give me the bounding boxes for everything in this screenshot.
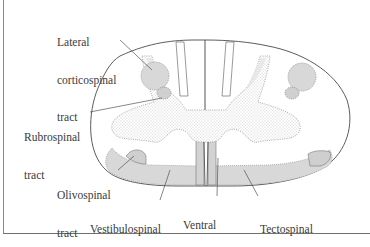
lateral-corticospinal-tract-left <box>141 62 169 90</box>
rubrospinal-tract-right <box>285 87 299 99</box>
rubrospinal-tract-left <box>157 87 171 99</box>
label-tectospinal-tract: Tectospinal tract <box>260 198 313 247</box>
label-line: Lateral <box>57 36 116 49</box>
spinal-cord-diagram: Lateral corticospinal tract Rubrospinal … <box>0 0 370 247</box>
label-line: Rubrospinal <box>24 131 80 144</box>
label-ventral-corticospinal-tract: Ventral corticospinal tract <box>183 194 242 247</box>
label-line: Ventral <box>183 219 242 232</box>
label-line: Vestibulospinal <box>90 223 161 236</box>
label-vestibulospinal-tract: Vestibulospinal tract <box>90 198 161 247</box>
label-line: corticospinal <box>57 74 116 87</box>
label-line: Tectospinal <box>260 223 313 236</box>
